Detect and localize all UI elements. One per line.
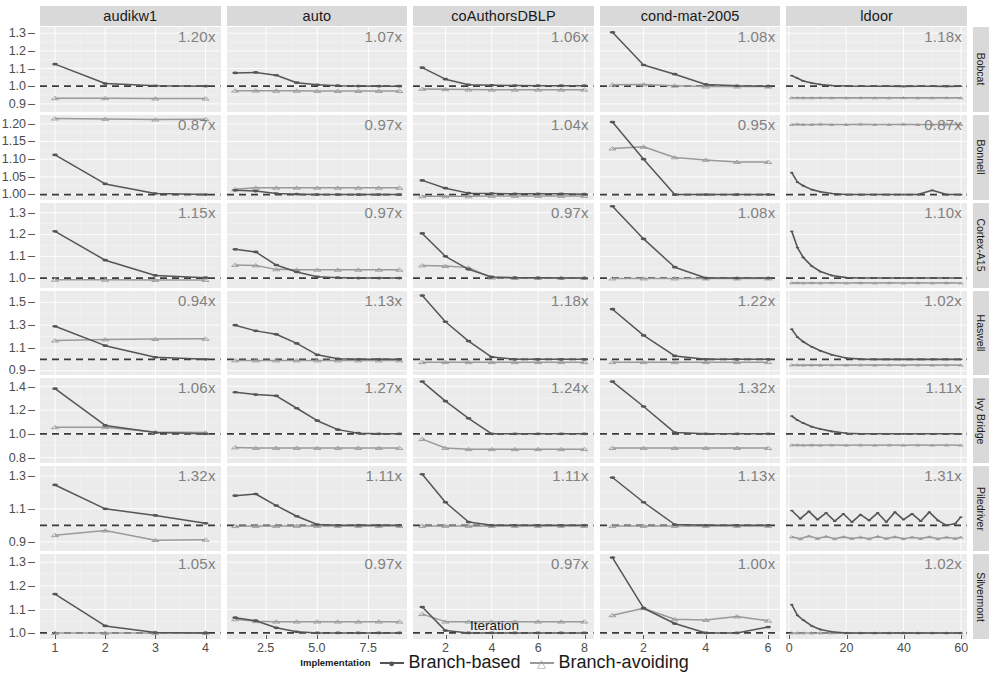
speedup-annotation: 1.02x [924, 292, 962, 309]
y-tick-label: 1.0– [9, 427, 35, 441]
y-tick-text: 1.2 [9, 227, 26, 241]
data-point-branch-based [232, 323, 238, 326]
data-point-branch-based [796, 420, 800, 422]
facet-row-haswell: 0.94x1.13x1.18x1.22x1.02xHaswell [40, 291, 967, 376]
data-point-branch-based [396, 358, 402, 361]
y-tick-mark: – [26, 502, 35, 516]
legend-item-branch-based[interactable]: ●Branch-based [380, 652, 521, 673]
data-point-branch-based [293, 193, 299, 196]
data-point-branch-based [466, 339, 472, 342]
y-tick-mark: – [26, 117, 35, 131]
data-point-branch-based [859, 194, 863, 196]
y-tick-text: 1.1 [9, 249, 26, 263]
panel-bonnell-coauthorsdblp: 1.04x [413, 115, 594, 200]
data-point-branch-based [273, 74, 279, 77]
data-point-branch-based [512, 433, 518, 436]
data-point-branch-based [640, 64, 646, 67]
y-tick-label: 1.2– [9, 579, 35, 593]
y-tick-label: 0.9– [9, 363, 35, 377]
data-point-branch-based [873, 277, 877, 279]
row-facet-text: Silvermont [975, 572, 987, 622]
data-point-branch-based [466, 192, 472, 195]
panel-piledriver-ldoor: 1.31x [786, 466, 967, 551]
speedup-annotation: 1.27x [364, 379, 402, 396]
data-point-branch-based [420, 606, 426, 609]
y-tick-mark: – [26, 363, 35, 377]
y-tick-text: 1.4 [9, 380, 26, 394]
data-point-branch-avoiding [790, 536, 794, 538]
speedup-annotation: 0.97x [364, 116, 402, 133]
row-facet-label-cortex-a15: Cortex-A15 [973, 203, 989, 288]
panel-ivy-bridge-coauthorsdblp: 1.24x [413, 378, 594, 463]
data-point-branch-avoiding [419, 612, 426, 615]
speedup-annotation: 0.94x [178, 292, 216, 309]
y-tick-text: 1.1 [9, 502, 26, 516]
data-point-branch-based [799, 518, 803, 520]
y-tick-text: 0.9 [9, 363, 26, 377]
panel-cortex-a15-auto: 0.97x [227, 203, 408, 288]
y-tick-text: 1.0 [9, 79, 26, 93]
y-tick-label: 1.1– [9, 341, 35, 355]
x-tick-mark [961, 635, 962, 639]
data-point-branch-based [802, 80, 806, 82]
data-point-branch-based [859, 514, 863, 516]
y-tick-text: 1.1 [9, 603, 26, 617]
data-point-branch-based [888, 433, 892, 435]
data-point-branch-based [489, 524, 495, 527]
panel-haswell-auto: 1.13x [227, 291, 408, 376]
row-facet-label-piledriver: Piledriver [973, 466, 989, 551]
data-point-branch-based [582, 358, 588, 361]
y-tick-text: 1.2 [9, 579, 26, 593]
data-point-branch-based [796, 77, 800, 79]
y-tick-text: 1.0 [9, 427, 26, 441]
data-point-branch-based [102, 82, 108, 85]
data-point-branch-based [335, 276, 341, 279]
data-point-branch-based [790, 172, 794, 174]
data-point-branch-based [830, 193, 834, 195]
data-point-branch-based [582, 193, 588, 196]
data-point-branch-based [919, 521, 923, 523]
facet-row-cortex-a15: 1.15x0.97x0.97x1.08x1.10xCortex-A15 [40, 203, 967, 288]
data-point-branch-based [734, 276, 740, 279]
data-point-branch-based [293, 270, 299, 273]
x-tick-mark [789, 635, 790, 639]
speedup-annotation: 0.87x [924, 116, 962, 133]
y-tick-text: 0.9 [9, 535, 26, 549]
data-point-branch-based [845, 85, 849, 87]
column-facet-label-coauthorsdblp: coAuthorsDBLP [413, 6, 594, 26]
x-tick-mark [706, 635, 707, 639]
legend-item-branch-avoiding[interactable]: △Branch-avoiding [530, 652, 689, 673]
data-point-branch-based [376, 193, 382, 196]
speedup-annotation: 1.24x [551, 379, 589, 396]
y-tick-text: 1.3 [9, 206, 26, 220]
data-point-branch-based [466, 83, 472, 86]
y-tick-text: 1.3 [9, 469, 26, 483]
data-point-branch-based [796, 246, 800, 248]
y-tick-text: 0.9 [9, 97, 26, 111]
row-facet-label-bonnell: Bonnell [973, 115, 989, 200]
data-point-branch-based [489, 192, 495, 195]
panel-piledriver-audikw1: 1.32x [40, 466, 221, 551]
panel-piledriver-cond-mat-2005: 1.13x [600, 466, 781, 551]
speedup-annotation: 0.97x [551, 555, 589, 572]
data-point-branch-based [396, 193, 402, 196]
x-tick-mark [585, 635, 586, 639]
data-point-branch-based [252, 190, 258, 193]
data-point-branch-based [931, 189, 935, 191]
data-point-branch-based [954, 523, 958, 525]
y-tick-text: 1.3 [9, 318, 26, 332]
x-tick-mark [206, 635, 207, 639]
speedup-annotation: 1.02x [924, 555, 962, 572]
data-point-branch-based [819, 350, 823, 352]
y-tick-text: 1.10 [2, 152, 26, 166]
data-point-branch-based [102, 344, 108, 347]
data-point-branch-based [916, 433, 920, 435]
data-point-branch-based [790, 510, 794, 512]
data-point-branch-based [790, 230, 794, 232]
facet-row-bobcat: 1.20x1.07x1.06x1.08x1.18xBobcat [40, 27, 967, 112]
data-point-branch-based [512, 358, 518, 361]
data-point-branch-based [335, 84, 341, 87]
y-tick-mark: – [26, 44, 35, 58]
data-point-branch-based [232, 248, 238, 251]
data-point-branch-based [252, 394, 258, 397]
